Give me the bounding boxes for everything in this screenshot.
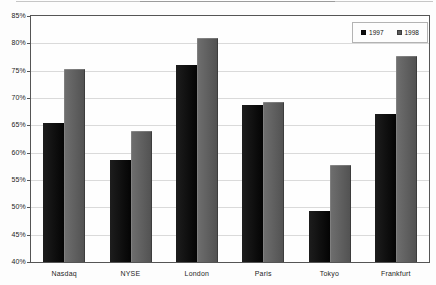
- gridline-45: [31, 235, 429, 236]
- y-axis-label-50pct: 50%: [0, 203, 26, 211]
- y-axis-tick: [27, 98, 30, 99]
- legend-label-1997: 1997: [369, 29, 383, 36]
- y-axis-label-75pct: 75%: [0, 67, 26, 75]
- gridline-70: [31, 98, 429, 99]
- y-axis-label-60pct: 60%: [0, 149, 26, 157]
- y-axis-tick: [27, 262, 30, 263]
- y-axis-tick: [27, 180, 30, 181]
- y-axis-label-40pct: 40%: [0, 258, 26, 266]
- bar-1998-paris: [263, 102, 284, 262]
- y-axis-tick: [27, 207, 30, 208]
- x-axis-label-tokyo: Tokyo: [296, 270, 362, 277]
- bar-1998-london: [197, 38, 218, 262]
- bar-1997-nyse: [110, 160, 131, 262]
- y-axis-label-85pct: 85%: [0, 12, 26, 20]
- bar-1997-frankfurt: [375, 114, 396, 262]
- legend-item-1997: 1997: [361, 29, 383, 36]
- bar-1998-frankfurt: [396, 56, 417, 262]
- y-axis-tick: [27, 235, 30, 236]
- bar-1997-nasdaq: [43, 123, 64, 262]
- scan-artifact-line-dark: [140, 1, 335, 2]
- bar-1997-tokyo: [309, 211, 330, 262]
- y-axis-tick: [27, 43, 30, 44]
- x-axis-label-nasdaq: Nasdaq: [31, 270, 97, 277]
- legend-label-1998: 1998: [405, 29, 419, 36]
- y-axis-label-80pct: 80%: [0, 39, 26, 47]
- bar-1998-tokyo: [330, 165, 351, 262]
- x-axis-label-london: London: [164, 270, 230, 277]
- y-axis-tick: [27, 125, 30, 126]
- gridline-75: [31, 71, 429, 72]
- legend-item-1998: 1998: [397, 29, 419, 36]
- legend-swatch-1997: [361, 30, 366, 35]
- y-axis-tick: [27, 16, 30, 17]
- y-axis-label-55pct: 55%: [0, 176, 26, 184]
- y-axis-tick: [27, 71, 30, 72]
- y-axis-tick: [27, 153, 30, 154]
- gridline-50: [31, 207, 429, 208]
- x-axis-label-nyse: NYSE: [97, 270, 163, 277]
- plot-area: [30, 15, 430, 263]
- x-axis-label-paris: Paris: [230, 270, 296, 277]
- y-axis-label-65pct: 65%: [0, 121, 26, 129]
- bar-1998-nyse: [131, 131, 152, 262]
- bar-1997-london: [176, 65, 197, 262]
- gridline-60: [31, 153, 429, 154]
- x-axis-label-frankfurt: Frankfurt: [363, 270, 429, 277]
- bar-1997-paris: [242, 105, 263, 262]
- legend: 1997 1998: [352, 22, 428, 43]
- stock-exchange-bar-chart: 85%80%75%70%65%60%55%50%45%40% NasdaqNYS…: [0, 0, 436, 285]
- legend-swatch-1998: [397, 30, 402, 35]
- gridline-55: [31, 180, 429, 181]
- gridline-65: [31, 125, 429, 126]
- y-axis-label-70pct: 70%: [0, 94, 26, 102]
- gridline-80: [31, 43, 429, 44]
- y-axis-label-45pct: 45%: [0, 231, 26, 239]
- bar-1998-nasdaq: [64, 69, 85, 263]
